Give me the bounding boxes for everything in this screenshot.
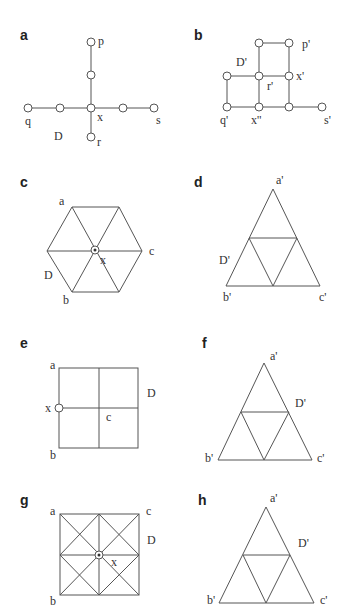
panel-e: e a D x c b <box>20 335 156 462</box>
center-dot <box>94 249 97 252</box>
vertex-x1 <box>285 72 293 80</box>
vertex-s <box>150 104 158 112</box>
vertex <box>255 39 263 47</box>
vertex <box>87 71 95 79</box>
label-a: a <box>50 504 56 518</box>
label-c: c' <box>320 593 328 607</box>
label-a: a <box>50 358 56 372</box>
label-a: a' <box>270 349 278 363</box>
label-D: D <box>44 268 53 282</box>
label-b: b' <box>223 290 231 304</box>
panel-d: d a' D' b' c' <box>194 173 327 304</box>
panel-a: a p q x s D r <box>20 27 161 149</box>
label-a: a <box>59 194 65 208</box>
vertex-s <box>318 103 326 111</box>
label-x2: x'' <box>251 113 261 127</box>
panel-c: c a c x D b <box>20 174 154 307</box>
label-s: s <box>156 113 161 127</box>
panel-label-b: b <box>194 27 203 43</box>
vertex-x <box>55 404 63 412</box>
label-p: p' <box>302 37 310 51</box>
panel-label-a: a <box>20 27 28 43</box>
figure-canvas: a p q x s D r b D' p' x' <box>0 0 350 616</box>
label-x: x <box>45 401 51 415</box>
vertex <box>255 72 263 80</box>
label-q: q' <box>220 113 228 127</box>
panel-b: b D' p' x' r' q' x'' s' <box>194 27 331 127</box>
inner-triangle <box>241 412 289 460</box>
vertex-p <box>87 38 95 46</box>
label-x: x <box>100 253 106 267</box>
label-a: a' <box>276 173 284 187</box>
inner-triangle <box>243 555 290 603</box>
label-a: a' <box>270 491 278 505</box>
label-b: b <box>50 448 56 462</box>
label-b: b <box>50 594 56 608</box>
label-D: D <box>54 129 63 143</box>
panel-label-c: c <box>20 174 28 190</box>
label-b: b' <box>207 593 215 607</box>
panel-label-d: d <box>194 174 203 190</box>
vertex-x <box>87 104 95 112</box>
label-D: D' <box>295 396 306 410</box>
label-r: r' <box>267 79 273 93</box>
panel-label-f: f <box>202 335 207 351</box>
label-c: c' <box>319 290 327 304</box>
label-r: r <box>97 135 101 149</box>
label-c: c <box>106 410 111 424</box>
panel-h: h a' D' b' c' <box>198 491 328 607</box>
label-D: D' <box>219 253 230 267</box>
label-D: D <box>147 533 156 547</box>
inner-triangle <box>249 238 297 286</box>
vertex-q <box>24 104 32 112</box>
vertex <box>56 104 64 112</box>
label-D: D' <box>298 536 309 550</box>
label-q: q <box>25 114 31 128</box>
panel-label-h: h <box>198 492 207 508</box>
label-s: s' <box>324 113 331 127</box>
vertex <box>223 72 231 80</box>
label-b: b <box>63 293 69 307</box>
vertex-x2 <box>255 103 263 111</box>
label-x: x <box>97 110 103 124</box>
panel-label-e: e <box>20 335 28 351</box>
label-b: b' <box>205 451 213 465</box>
panel-f: f a' D' b' c' <box>202 335 325 465</box>
label-D: D' <box>236 55 247 69</box>
label-p: p <box>98 34 104 48</box>
vertex-q <box>223 103 231 111</box>
panel-g: g a c D x b <box>20 492 156 608</box>
vertex-r <box>87 133 95 141</box>
vertex <box>119 104 127 112</box>
label-c: c' <box>317 451 325 465</box>
label-c: c <box>146 504 151 518</box>
vertex <box>285 103 293 111</box>
label-x1: x' <box>296 69 304 83</box>
label-x: x <box>111 555 117 569</box>
label-c: c <box>149 244 154 258</box>
center-dot <box>98 554 101 557</box>
label-D: D <box>147 386 156 400</box>
panel-label-g: g <box>20 492 29 508</box>
vertex-p <box>285 39 293 47</box>
